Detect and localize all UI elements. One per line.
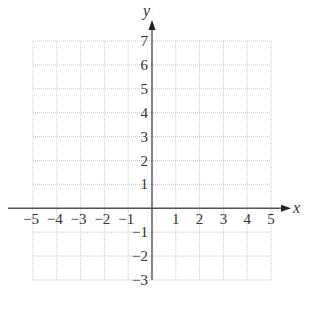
y-tick-label: 1 (141, 176, 149, 192)
y-axis-label: y (141, 2, 151, 20)
x-tick-labels: −5−4−3−2−112345 (23, 211, 275, 227)
coordinate-plane: −5−4−3−2−112345 −3−2−11234567 x y (0, 0, 313, 310)
x-axis-arrow-icon (281, 205, 291, 212)
x-tick-label: 3 (220, 211, 228, 227)
y-tick-label: 5 (141, 81, 149, 97)
x-tick-label: −2 (94, 211, 110, 227)
x-tick-label: 4 (243, 211, 251, 227)
y-tick-label: −2 (132, 248, 148, 264)
x-tick-label: −3 (71, 211, 87, 227)
axes (8, 20, 291, 280)
x-tick-label: −4 (47, 211, 63, 227)
y-tick-label: −1 (132, 224, 148, 240)
x-tick-label: 1 (172, 211, 180, 227)
y-tick-label: 7 (141, 33, 149, 49)
x-tick-label: 2 (196, 211, 204, 227)
y-tick-labels: −3−2−11234567 (132, 33, 148, 288)
y-tick-label: 6 (141, 57, 149, 73)
y-tick-label: −3 (132, 272, 148, 288)
y-tick-label: 4 (141, 105, 149, 121)
y-axis-arrow-icon (149, 20, 156, 30)
x-tick-label: 5 (267, 211, 275, 227)
x-axis-label: x (292, 199, 300, 216)
y-tick-label: 3 (141, 129, 149, 145)
x-tick-label: −5 (23, 211, 39, 227)
y-tick-label: 2 (141, 153, 149, 169)
